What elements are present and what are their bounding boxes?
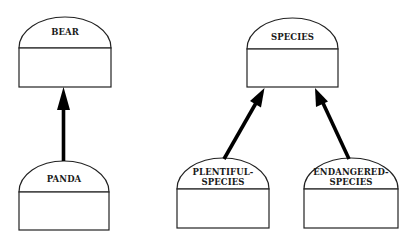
arrow-head-icon [250,88,265,108]
node-panda-label: PANDA [47,174,82,184]
node-panda: PANDA [19,161,109,230]
arrow-head-icon [57,87,70,110]
node-endangered-species: ENDANGERED- SPECIES [304,158,398,228]
node-panda-body [19,192,109,230]
node-bear: BEAR [19,17,111,87]
node-endangered-label-line1: ENDANGERED- [313,167,389,177]
node-species-body [247,49,338,87]
arrow-shaft [323,102,350,159]
class-hierarchy-diagram: BEAR PANDA SPECIES PLENTIFUL- SPECIES EN… [0,0,417,246]
edge-panda-to-bear [57,87,70,161]
node-species: SPECIES [247,18,338,87]
node-endangered-label-line2: SPECIES [329,177,372,187]
node-endangered-body [304,189,398,228]
edge-endangered-to-species [315,88,349,159]
node-plentiful-body [177,189,269,228]
node-bear-body [19,48,111,87]
edge-plentiful-to-species [224,88,265,159]
node-bear-label: BEAR [51,27,80,37]
node-plentiful-species: PLENTIFUL- SPECIES [177,158,269,228]
node-plentiful-label-line2: SPECIES [201,177,244,187]
node-plentiful-label-line1: PLENTIFUL- [193,167,254,177]
node-species-label: SPECIES [271,32,314,42]
arrow-head-icon [315,88,328,107]
arrow-shaft [224,103,256,159]
